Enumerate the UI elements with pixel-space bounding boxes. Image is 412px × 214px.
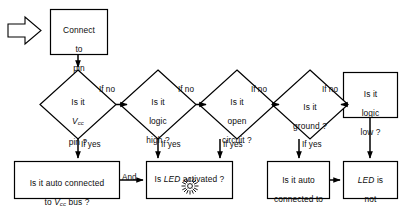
is-open-circuit-diamond (199, 70, 275, 139)
edge-label-no-3: If no (251, 85, 267, 94)
is-ground-diamond (272, 70, 348, 139)
edge-label-yes-1: If yes (81, 140, 101, 149)
edge-label-yes-3: If yes (223, 140, 243, 149)
flowchart-canvas: Connect to pin Is it Vcc pin ? Is it log… (0, 0, 412, 214)
is-vcc-pin-diamond (40, 70, 116, 139)
is-logic-low-box (344, 73, 398, 118)
connect-to-pin-box (51, 10, 108, 55)
edge-label-no-4: If no (322, 85, 338, 94)
auto-connected-ground-bus-box (268, 162, 330, 199)
is-led-activated-box (147, 162, 233, 199)
auto-connected-vcc-bus-box (15, 162, 120, 199)
entry-block-arrow (8, 17, 41, 44)
edge-label-yes-2: If yes (161, 140, 181, 149)
edge-label-no-1: If no (99, 85, 115, 94)
edge-label-and-1: And (122, 173, 137, 182)
led-not-activated-box (344, 162, 398, 199)
edge-label-yes-4: If yes (302, 140, 322, 149)
edge-label-no-2: If no (178, 85, 194, 94)
is-logic-high-diamond (120, 70, 196, 139)
flowchart-graphics (0, 0, 412, 214)
